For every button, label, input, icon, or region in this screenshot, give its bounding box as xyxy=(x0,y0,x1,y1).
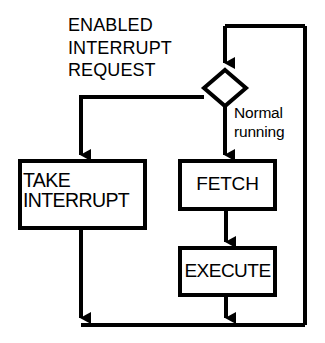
flowchart-canvas: ENABLED INTERRUPT REQUEST Normal running… xyxy=(0,0,325,343)
normal-branch-label: Normal running xyxy=(234,104,284,141)
execute-label: EXECUTE xyxy=(180,261,275,281)
take-interrupt-label: TAKE INTERRUPT xyxy=(23,170,129,210)
fetch-label: FETCH xyxy=(180,174,275,194)
decision-diamond xyxy=(204,70,246,106)
interrupt-branch-label: ENABLED INTERRUPT REQUEST xyxy=(68,14,172,82)
edge-interrupt-branch xyxy=(81,97,204,155)
